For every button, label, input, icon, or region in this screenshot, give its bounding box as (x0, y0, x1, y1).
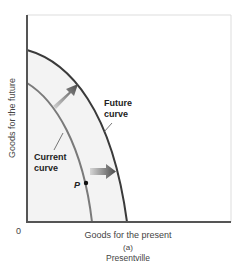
future-curve-label-line1: Future (104, 98, 132, 109)
future-curve-leader-line (104, 123, 112, 132)
panel-label: (a) (123, 242, 133, 253)
point-p-label: P (74, 180, 80, 191)
future-curve-label-line2: curve (104, 109, 132, 120)
future-curve-label: Future curve (104, 98, 132, 120)
y-axis-label: Goods for the future (7, 78, 17, 158)
current-curve-label: Current curve (34, 152, 67, 174)
point-p-marker (84, 181, 88, 185)
current-curve-label-line1: Current (34, 152, 67, 163)
feasible-region-shade (27, 50, 127, 222)
x-axis-label: Goods for the present (84, 230, 171, 241)
panel-title: Presentville (106, 253, 150, 264)
origin-label: 0 (16, 226, 21, 237)
current-curve-label-line2: curve (34, 163, 67, 174)
ppf-diagram: Goods for the future Goods for the prese… (0, 0, 252, 274)
